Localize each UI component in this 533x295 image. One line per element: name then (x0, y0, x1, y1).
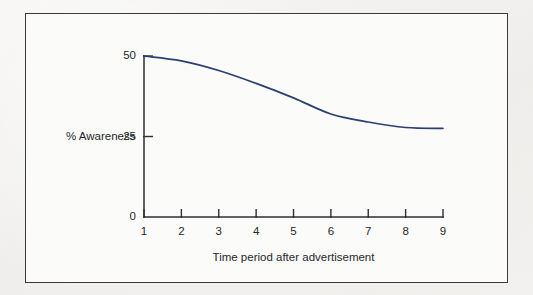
x-tick-label: 4 (253, 226, 259, 238)
plot-area (26, 14, 507, 282)
x-tick-label: 5 (290, 226, 296, 238)
x-tick-label: 9 (440, 226, 446, 238)
x-tick-label: 6 (328, 226, 334, 238)
x-tick-label: 7 (365, 226, 371, 238)
y-tick-label-50: 50 (110, 50, 136, 62)
chart-figure: 0 25 50 % Awareness 123456789 Time perio… (0, 0, 533, 295)
x-tick-label: 8 (402, 226, 408, 238)
data-series-line (144, 56, 443, 128)
x-axis-title: Time period after advertisement (213, 252, 375, 264)
x-tick-label: 3 (216, 226, 222, 238)
y-axis-title: % Awareness (66, 131, 135, 143)
x-tick-label: 1 (141, 226, 147, 238)
y-tick-label-0: 0 (110, 211, 136, 223)
chart-frame: 0 25 50 % Awareness 123456789 Time perio… (25, 13, 508, 283)
x-tick-label: 2 (178, 226, 184, 238)
